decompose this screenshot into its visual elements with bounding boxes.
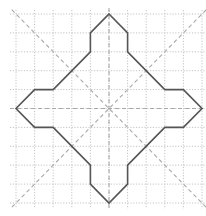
symmetry-axes: [10, 8, 206, 209]
grid-figure-diagram: [0, 0, 206, 216]
diagram-canvas: [0, 0, 206, 216]
